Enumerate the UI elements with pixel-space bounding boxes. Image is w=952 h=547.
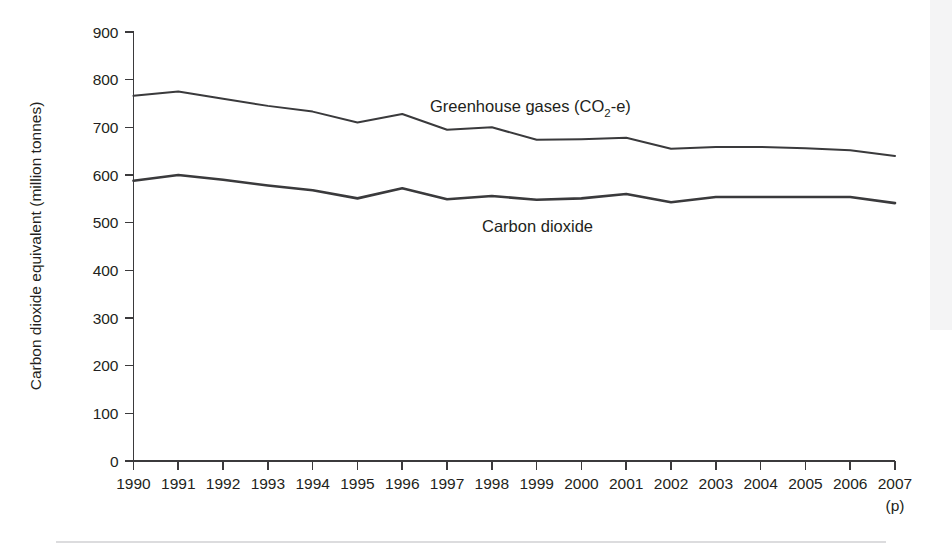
y-axis-title: Carbon dioxide equivalent (million tonne… xyxy=(27,102,44,391)
x-axis-tick-label: 2001 xyxy=(609,475,643,492)
x-axis-tick-label: 2004 xyxy=(743,475,778,492)
scan-artifact-line xyxy=(56,541,886,543)
x-axis-tick-label: 1999 xyxy=(519,475,553,492)
x-axis-tick-label: 1996 xyxy=(385,475,419,492)
series-line-carbon-dioxide xyxy=(134,175,896,203)
y-axis-tick-label: 100 xyxy=(93,405,119,422)
line-chart: 0100200300400500600700800900 19901991199… xyxy=(0,0,952,547)
y-axis-tick-label: 0 xyxy=(110,453,119,470)
x-axis-preliminary-note: (p) xyxy=(886,497,905,514)
series-label-greenhouse-gases: Greenhouse gases (CO2-e) xyxy=(430,97,631,119)
y-axis-tick-label: 500 xyxy=(93,214,119,231)
x-axis-tick-label: 1992 xyxy=(206,475,240,492)
x-axis-tick-label: 2003 xyxy=(699,475,733,492)
x-axis-tick-label: 2006 xyxy=(833,475,867,492)
y-axis-tick-label: 800 xyxy=(93,71,119,88)
x-axis-tick-label: 1997 xyxy=(430,475,464,492)
y-axis-tick-label: 400 xyxy=(93,262,119,279)
x-axis-ticks xyxy=(134,461,896,470)
y-axis-tick-labels: 0100200300400500600700800900 xyxy=(93,24,119,470)
x-axis-tick-label: 1993 xyxy=(251,475,285,492)
x-axis-tick-label: 2002 xyxy=(654,475,688,492)
chart-figure: 0100200300400500600700800900 19901991199… xyxy=(0,0,952,547)
y-axis-tick-label: 600 xyxy=(93,167,119,184)
series-label-carbon-dioxide: Carbon dioxide xyxy=(482,217,593,235)
x-axis-tick-label: 1991 xyxy=(161,475,195,492)
y-axis-tick-label: 300 xyxy=(93,310,119,327)
x-axis-tick-label: 2000 xyxy=(564,475,599,492)
x-axis-tick-label: 1998 xyxy=(475,475,509,492)
y-axis-tick-label: 700 xyxy=(93,119,119,136)
x-axis-tick-label: 2005 xyxy=(788,475,822,492)
x-axis-tick-label: 1995 xyxy=(340,475,374,492)
y-axis-ticks xyxy=(125,32,134,461)
x-axis-tick-label: 1990 xyxy=(116,475,151,492)
scan-artifact-edge xyxy=(930,0,952,330)
x-axis-tick-labels: 1990199119921993199419951996199719981999… xyxy=(116,475,912,492)
y-axis-tick-label: 200 xyxy=(93,357,119,374)
x-axis-tick-label: 2007 xyxy=(878,475,912,492)
x-axis-tick-label: 1994 xyxy=(295,475,330,492)
y-axis-tick-label: 900 xyxy=(93,24,119,41)
